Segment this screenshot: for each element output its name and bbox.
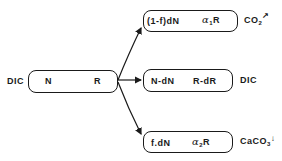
co2-branch-right-expr: α1R bbox=[202, 15, 220, 28]
source-r: R bbox=[94, 76, 101, 86]
source-box: N R bbox=[28, 70, 118, 93]
source-dic-label: DIC bbox=[7, 76, 24, 86]
co2-branch-left-expr: (1-f)dN bbox=[147, 16, 180, 26]
caco3-branch-left-expr: f.dN bbox=[151, 138, 171, 148]
dic-branch-right-expr: R-dR bbox=[193, 76, 217, 86]
caco3-branch-right-expr: α2R bbox=[192, 137, 210, 150]
dic-branch-box: N-dN R-dR bbox=[143, 69, 233, 92]
source-n: N bbox=[45, 76, 52, 86]
dic-branch-left-expr: N-dN bbox=[151, 76, 175, 86]
arrow-to-caco3-box bbox=[118, 82, 141, 134]
co2-output-label: CO2↗ bbox=[244, 15, 270, 28]
down-arrow-icon: ↓ bbox=[271, 134, 276, 143]
co2-branch-box: (1-f)dN α1R bbox=[143, 10, 238, 32]
dic-output-label: DIC bbox=[240, 75, 257, 85]
caco3-branch-box: f.dN α2R bbox=[143, 131, 233, 153]
up-arrow-icon: ↗ bbox=[262, 11, 270, 20]
caco3-output-label: CaCO3↓ bbox=[240, 136, 275, 149]
arrow-to-co2-box bbox=[118, 28, 141, 80]
